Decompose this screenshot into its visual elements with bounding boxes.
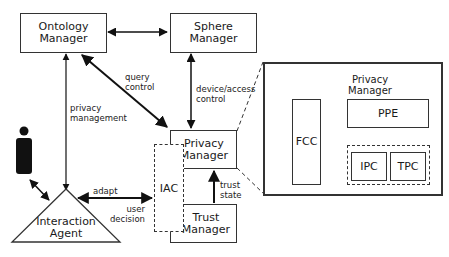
privacy-manager-label: Privacy Manager [180,138,228,162]
ppe-box: PPE [347,99,429,128]
label-adapt: adapt [93,186,118,196]
user-figure-icon [16,127,32,175]
label-device-access-control: device/access control [196,84,255,104]
iac-label: IAC [160,182,178,195]
sphere-manager-box: Sphere Manager [170,13,257,53]
label-query-control: query control [125,72,154,92]
edge-user-agent [30,180,49,200]
ontology-manager-box: Ontology Manager [20,13,107,53]
label-trust-state: trust state [220,180,242,200]
ipc-box: IPC [351,152,387,181]
detail-title: Privacy Manager [330,74,410,96]
label-user-decision: user decision [108,204,145,224]
fcc-box: FCC [292,99,321,185]
iac-box: IAC [154,144,184,232]
tpc-box: TPC [390,152,426,181]
interaction-agent-label: Interaction Agent [28,216,104,240]
label-privacy-management: privacy management [70,103,127,123]
trust-manager-label: Trust Manager [182,212,230,236]
